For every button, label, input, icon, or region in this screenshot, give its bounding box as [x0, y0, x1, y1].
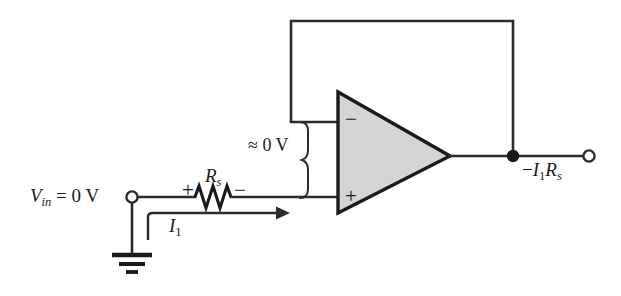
input-terminal-circle	[126, 191, 137, 202]
i1-subscript: 1	[175, 225, 181, 239]
output-terminal-circle	[583, 150, 594, 161]
ground-icon	[112, 255, 152, 272]
current-i1-arrowhead	[276, 207, 290, 220]
opamp-inverting-input-label: −	[345, 109, 357, 130]
output-current-subscript: 1	[539, 169, 545, 183]
vin-subscript: in	[42, 195, 52, 209]
output-resistor-symbol: R	[545, 159, 557, 180]
resistor-plus-polarity-label: +	[182, 180, 194, 201]
resistor-rs-symbol	[195, 186, 231, 208]
output-junction-dot	[507, 150, 519, 162]
output-sign: −	[522, 159, 533, 180]
rs-symbol: R	[205, 165, 217, 186]
virtual-ground-brace	[300, 122, 308, 198]
vin-value: = 0 V	[51, 185, 99, 206]
resistor-label: Rs	[205, 166, 222, 185]
output-voltage-label: −I1Rs	[522, 160, 562, 179]
current-i1-arrow	[148, 213, 276, 240]
circuit-schematic	[0, 0, 621, 296]
vin-symbol: V	[30, 185, 42, 206]
current-label: I1	[169, 216, 182, 235]
virtual-ground-label: ≈ 0 V	[248, 136, 289, 154]
input-voltage-label: Vin = 0 V	[30, 186, 99, 205]
rs-subscript: s	[217, 175, 222, 189]
figure-canvas: Vin = 0 V Rs + − I1 ≈ 0 V − + −I1Rs	[0, 0, 621, 296]
output-resistor-subscript: s	[557, 169, 562, 183]
resistor-minus-polarity-label: −	[234, 180, 246, 201]
opamp-noninverting-input-label: +	[345, 186, 357, 207]
